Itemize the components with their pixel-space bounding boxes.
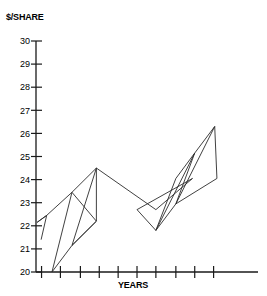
chart-container: $/SHARE YEARS 3029282726252423222120	[0, 0, 267, 296]
y-tick-label: 21	[20, 244, 30, 254]
y-tick-label: 25	[20, 152, 30, 162]
y-tick-label: 23	[20, 198, 30, 208]
share-price-line-chart: $/SHARE YEARS 3029282726252423222120	[0, 0, 267, 296]
series-line-share-price	[37, 126, 217, 272]
y-tick-label: 30	[20, 36, 30, 46]
y-axis-tick-labels: 3029282726252423222120	[20, 36, 30, 277]
x-axis-title: YEARS	[118, 280, 148, 290]
y-tick-label: 24	[20, 175, 30, 185]
y-tick-label: 22	[20, 221, 30, 231]
y-axis-title: $/SHARE	[6, 12, 44, 22]
data-series-group	[37, 126, 217, 272]
y-tick-label: 27	[20, 106, 30, 116]
y-tick-label: 20	[20, 267, 30, 277]
y-tick-label: 28	[20, 82, 30, 92]
y-tick-label: 26	[20, 129, 30, 139]
y-tick-label: 29	[20, 59, 30, 69]
